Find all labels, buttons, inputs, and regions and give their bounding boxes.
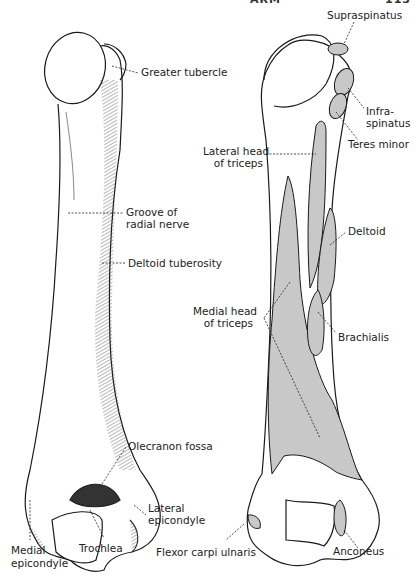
label-lateral-epicondyle-line2: epicondyle (148, 514, 205, 526)
label-brachialis: Brachialis (338, 331, 389, 343)
label-medial-epicondyle-line2: epicondyle (11, 557, 68, 569)
label-teres-minor: Teres minor (348, 138, 409, 150)
label-medial-head-triceps-line1: Medial head (193, 305, 253, 317)
label-lateral-head-triceps-line2: of triceps (203, 157, 263, 169)
label-infraspinatus-line2: spinatus (366, 117, 410, 129)
label-deltoid-tuberosity: Deltoid tuberosity (128, 257, 222, 269)
left-humerus (25, 25, 160, 571)
label-trochlea: Trochlea (79, 542, 123, 554)
label-groove-radial-nerve-line2: radial nerve (126, 218, 189, 230)
label-deltoid: Deltoid (348, 225, 386, 237)
label-lateral-head-triceps-line1: Lateral head (203, 145, 263, 157)
label-flexor-carpi-ulnaris: Flexor carpi ulnaris (156, 546, 256, 558)
label-supraspinatus: Supraspinatus (327, 9, 402, 21)
label-greater-tubercle: Greater tubercle (141, 66, 227, 78)
label-lateral-epicondyle-line1: Lateral (148, 502, 185, 514)
label-infraspinatus-line1: Infra- (366, 105, 394, 117)
label-medial-head-triceps-line2: of triceps (193, 317, 253, 329)
humerus-illustration (0, 0, 419, 587)
label-olecranon-fossa: Olecranon fossa (128, 440, 213, 452)
label-medial-epicondyle-line1: Medial (11, 544, 45, 556)
label-groove-radial-nerve-line1: Groove of (126, 206, 177, 218)
label-anconeus: Anconeus (333, 545, 384, 557)
supraspinatus-area (328, 43, 348, 55)
